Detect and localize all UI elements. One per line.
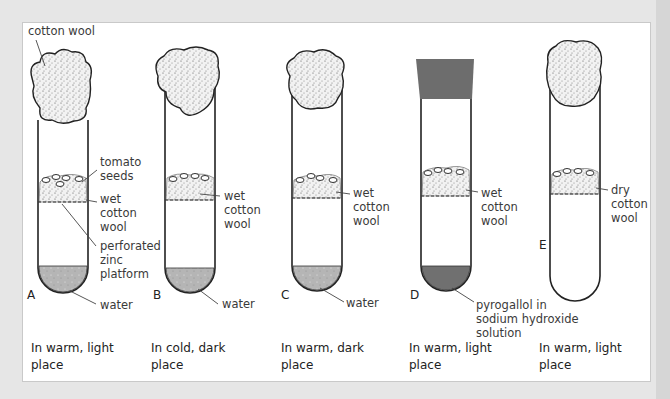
tube-e bbox=[547, 41, 608, 301]
tube-letter-a: A bbox=[27, 288, 35, 302]
tube-letter-e: E bbox=[539, 238, 547, 252]
label-cotton-wool: cotton wool bbox=[28, 24, 95, 38]
tube-c bbox=[287, 50, 350, 302]
pyrogallol-solution bbox=[422, 266, 470, 290]
tube-a bbox=[31, 40, 97, 304]
tube-b bbox=[156, 47, 220, 304]
label-perforated-zinc-platform: perforated zinc platform bbox=[100, 239, 161, 281]
tube-letter-b: B bbox=[153, 288, 161, 302]
label-water-a: water bbox=[100, 298, 133, 312]
cotton-wool-plug-c bbox=[287, 50, 344, 109]
caption-a: In warm, light place bbox=[31, 340, 114, 374]
label-tomato-seeds: tomato seeds bbox=[100, 155, 141, 183]
label-water-b: water bbox=[222, 297, 255, 311]
label-water-c: water bbox=[346, 296, 379, 310]
tube-letter-d: D bbox=[410, 288, 419, 302]
label-wet-cotton-wool-c: wet cotton wool bbox=[353, 186, 390, 228]
cotton-wool-plug-a bbox=[31, 49, 91, 123]
label-dry-cotton-wool: dry cotton wool bbox=[611, 183, 648, 225]
caption-c: In warm, dark place bbox=[281, 340, 364, 374]
label-pyrogallol: pyrogallol in sodium hydroxide solution bbox=[476, 298, 579, 340]
rubber-bung-d bbox=[416, 59, 474, 99]
caption-e: In warm, light place bbox=[539, 340, 622, 374]
label-wet-cotton-wool-d: wet cotton wool bbox=[481, 186, 518, 228]
tube-d bbox=[416, 59, 478, 302]
label-wet-cotton-wool-a: wet cotton wool bbox=[100, 192, 137, 234]
caption-b: In cold, dark place bbox=[151, 340, 225, 374]
label-wet-cotton-wool-b: wet cotton wool bbox=[224, 189, 261, 231]
caption-d: In warm, light place bbox=[409, 340, 492, 374]
cotton-wool-plug-e bbox=[547, 41, 602, 107]
tube-letter-c: C bbox=[281, 288, 289, 302]
